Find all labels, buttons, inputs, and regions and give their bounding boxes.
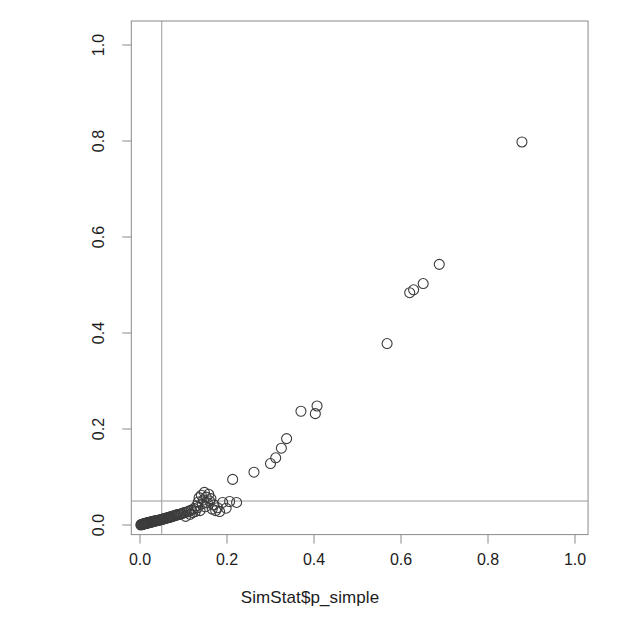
data-point [517,137,527,147]
data-points [136,137,527,530]
data-point [271,453,281,463]
data-point [418,279,428,289]
scatter-plot-figure: 0.00.20.40.60.81.0 0.00.20.40.60.81.0 Si… [0,0,620,640]
y-tick-label: 1.0 [90,15,108,75]
y-tick-label: 0.0 [90,495,108,555]
y-tick-label: 0.8 [90,111,108,171]
data-point [382,339,392,349]
y-tick-label: 0.6 [90,207,108,267]
x-axis-ticks [140,535,575,544]
y-tick-label: 0.2 [90,399,108,459]
x-tick-label: 0.4 [284,551,344,569]
x-tick-label: 1.0 [545,551,605,569]
x-tick-label: 0.8 [458,551,518,569]
plot-frame [131,21,588,535]
data-point [296,406,306,416]
data-point [266,459,276,469]
data-point [276,443,286,453]
y-tick-label: 0.4 [90,303,108,363]
data-point [228,474,238,484]
y-axis-ticks [122,45,131,525]
data-point [249,467,259,477]
x-tick-label: 0.6 [371,551,431,569]
plot-box [131,21,588,535]
reference-lines [131,21,588,535]
data-point [434,259,444,269]
x-tick-label: 0.2 [197,551,257,569]
x-axis-title: SimStat$p_simple [0,588,620,608]
data-point [282,434,292,444]
data-point [232,497,242,507]
x-tick-label: 0.0 [110,551,170,569]
